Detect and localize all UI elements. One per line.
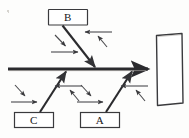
branch-a-box[interactable]	[81, 113, 120, 128]
scan-speck-icon	[8, 12, 9, 13]
fishbone-diagram	[0, 0, 189, 138]
sub-arrow-c-left-diagonal	[15, 85, 25, 96]
diagram-canvas: B C A	[0, 0, 189, 138]
branch-a[interactable]	[77, 72, 148, 128]
sub-arrow-c-right-diagonal	[70, 90, 79, 101]
sub-arrow-b-right-diagonal	[98, 36, 107, 47]
branch-c[interactable]	[11, 72, 82, 128]
sub-arrow-b-left-diagonal	[55, 35, 66, 46]
sub-arrow-a-right-diagonal	[136, 90, 145, 101]
branch-c-line	[40, 72, 66, 113]
branch-c-box[interactable]	[15, 113, 54, 128]
main-spine-arrow[interactable]	[8, 69, 148, 71]
branch-b-box[interactable]	[49, 10, 88, 26]
branch-b[interactable]	[49, 10, 113, 68]
branch-a-line	[106, 72, 132, 113]
sub-arrow-a-left-diagonal	[81, 85, 91, 96]
effect-box[interactable]	[157, 34, 184, 106]
effect-box-outline	[157, 34, 184, 106]
